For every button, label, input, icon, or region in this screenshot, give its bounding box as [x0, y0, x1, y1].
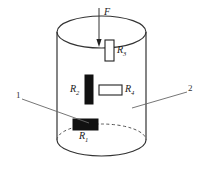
strain-gauge-r1 [73, 119, 98, 130]
gauge-label-r1: R1 [79, 131, 88, 144]
gauge-label-r3-subscript: 3 [123, 50, 126, 57]
strain-gauge-r4 [99, 85, 122, 95]
gauge-label-r1-subscript: 1 [85, 136, 88, 143]
gauge-label-r4-subscript: 4 [131, 89, 134, 96]
cylinder-bottom-front-arc [57, 140, 146, 156]
gauge-label-r4: R4 [125, 84, 134, 97]
callout-leader-1 [22, 99, 89, 123]
force-arrow-head [96, 39, 101, 47]
gauge-label-r2-subscript: 2 [76, 89, 79, 96]
callout-leader-2 [132, 92, 187, 108]
cylinder-bottom-back-arc [57, 124, 146, 140]
callout-label-2: 2 [188, 84, 193, 93]
callout-label-1: 1 [16, 91, 21, 100]
cylinder-diagram [0, 0, 208, 178]
strain-gauge-r2 [85, 75, 93, 104]
gauge-label-r3: R3 [117, 45, 126, 58]
gauge-label-r2: R2 [70, 84, 79, 97]
figure-container: F R3 R2 R4 R1 1 2 [0, 0, 208, 178]
force-label: F [104, 7, 110, 17]
strain-gauge-r3 [105, 40, 114, 61]
cylinder-top-ellipse [57, 16, 146, 48]
